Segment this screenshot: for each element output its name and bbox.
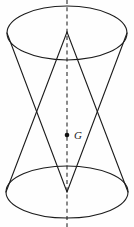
centroid-label-g: G <box>74 129 82 141</box>
double-cone-figure: G <box>0 0 134 227</box>
geometry-figure-container: G <box>0 0 134 227</box>
centroid-point-dot <box>65 133 70 138</box>
